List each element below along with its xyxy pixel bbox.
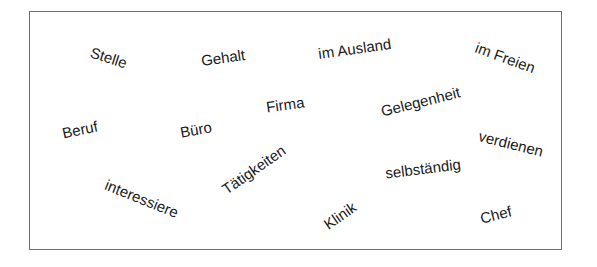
word-firma: Firma bbox=[265, 94, 305, 114]
